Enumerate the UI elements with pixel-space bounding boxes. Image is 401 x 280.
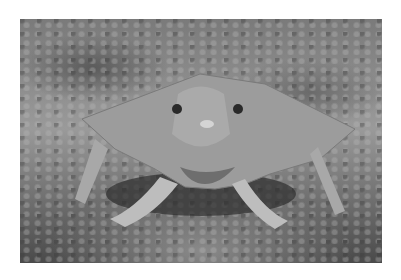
batfish-photo — [20, 19, 382, 263]
batfish-illustration — [20, 19, 382, 263]
